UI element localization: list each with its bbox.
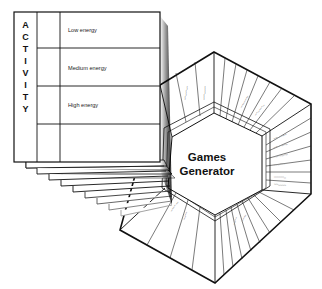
card-frame xyxy=(14,12,160,162)
activity-letter: A xyxy=(22,20,29,30)
sector-label: ━━━━━━ xyxy=(273,175,286,180)
activity-letter: Y xyxy=(22,104,28,114)
row-label-high-energy: High energy xyxy=(68,102,98,108)
activity-letter: I xyxy=(24,56,27,66)
activity-letter: I xyxy=(24,80,27,90)
row-label-low-energy: Low energy xyxy=(68,27,97,33)
activity-letter: C xyxy=(22,32,29,42)
row-label-medium-energy: Medium energy xyxy=(68,65,107,71)
front-card: A C T I V I T Y Low energy Medium energy… xyxy=(14,12,160,162)
hub-title-line2: Generator xyxy=(180,165,235,177)
games-generator-diagram: ━━━━━━━ ━━━━━━━ ━━━━━━━ ━━━━━━━ ━━━━━━━ … xyxy=(0,0,322,289)
activity-letter: V xyxy=(22,68,28,78)
activity-letter: T xyxy=(23,44,29,54)
hub-title-line1: Games xyxy=(188,151,226,163)
activity-letter: T xyxy=(23,92,29,102)
